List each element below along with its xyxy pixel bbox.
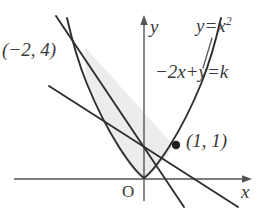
point-marker-1-1 (172, 141, 180, 149)
label-curve-text: y=x (196, 15, 226, 36)
label-curve-exponent: 2 (226, 15, 232, 28)
y-axis-arrow-icon (140, 15, 147, 25)
label-line-equation: −2x+y=k (155, 62, 228, 81)
label-axis-x: x (241, 182, 249, 201)
label-axis-y: y (150, 17, 158, 36)
label-point-1-1: (1, 1) (186, 131, 227, 150)
label-point-minus2-4: (−2, 4) (2, 40, 56, 59)
label-origin: O (122, 183, 134, 200)
label-curve-equation: y=x2 (196, 16, 232, 35)
math-figure: (−2, 4) y=x2 −2x+y=k (1, 1) O x y (0, 0, 264, 223)
